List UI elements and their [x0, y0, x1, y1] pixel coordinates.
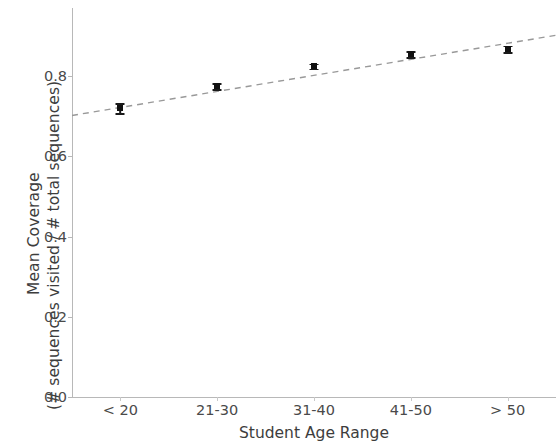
x-tick-label: 31-40	[274, 402, 354, 418]
error-cap-lower	[406, 57, 415, 59]
y-tick-mark	[68, 397, 72, 398]
x-tick-label: < 20	[80, 402, 160, 418]
y-tick-label: 0.4	[27, 229, 67, 245]
x-tick-label: > 50	[468, 402, 548, 418]
error-cap-lower	[213, 89, 222, 91]
x-tick-mark	[314, 397, 315, 401]
x-tick-mark	[217, 397, 218, 401]
data-point	[408, 51, 414, 57]
x-tick-mark	[411, 397, 412, 401]
x-tick-mark	[508, 397, 509, 401]
data-point	[505, 46, 511, 52]
y-axis-label: Mean Coverage (# sequences visited / # t…	[0, 0, 58, 447]
plot-area: 0.00.20.40.60.8 < 2021-3031-4041-50> 50	[72, 8, 556, 397]
y-axis-label-line-2: (# sequences visited / # total sequences…	[45, 81, 63, 410]
x-tick-mark	[120, 397, 121, 401]
y-tick-label: 0.8	[27, 68, 67, 84]
data-point	[311, 63, 317, 69]
y-tick-label: 0.2	[27, 309, 67, 325]
x-axis-label: Student Age Range	[72, 424, 556, 442]
error-cap-lower	[503, 52, 512, 54]
x-tick-label: 21-30	[177, 402, 257, 418]
data-point	[214, 83, 220, 89]
y-tick-label: 0.6	[27, 148, 67, 164]
error-cap-lower	[116, 113, 125, 115]
x-tick-label: 41-50	[371, 402, 451, 418]
chart-figure: Mean Coverage (# sequences visited / # t…	[0, 0, 556, 447]
data-point	[117, 105, 123, 111]
y-tick-label: 0.0	[27, 389, 67, 405]
